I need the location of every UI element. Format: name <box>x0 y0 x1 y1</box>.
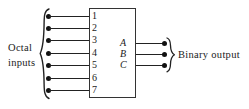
output-pin-label-a: A <box>120 38 126 48</box>
input-pin-number-2: 2 <box>92 23 97 33</box>
right-curly-brace-icon <box>166 37 176 73</box>
input-wire-2 <box>49 28 89 29</box>
input-pin-number-4: 4 <box>92 48 97 58</box>
input-wire-7 <box>49 90 89 91</box>
input-wire-4 <box>49 53 89 54</box>
input-wire-6 <box>49 78 89 79</box>
input-wire-1 <box>49 16 89 17</box>
octal-inputs-label-line2: inputs <box>8 58 35 69</box>
input-pin-number-5: 5 <box>92 60 97 70</box>
output-wire-b <box>136 54 165 55</box>
input-pin-number-1: 1 <box>92 11 97 21</box>
input-pin-number-6: 6 <box>92 73 97 83</box>
octal-inputs-label-line1: Octal <box>8 43 32 54</box>
input-pin-number-7: 7 <box>92 85 97 95</box>
input-wire-3 <box>49 40 89 41</box>
output-wire-c <box>136 65 165 66</box>
output-pin-label-c: C <box>120 60 127 70</box>
encoder-diagram: Octal inputs 1 2 3 4 5 6 7 A B C <box>0 0 249 109</box>
input-pin-number-3: 3 <box>92 35 97 45</box>
output-wire-a <box>136 43 165 44</box>
output-pin-label-b: B <box>120 49 126 59</box>
binary-output-label: Binary output <box>178 50 240 61</box>
input-wire-5 <box>49 65 89 66</box>
